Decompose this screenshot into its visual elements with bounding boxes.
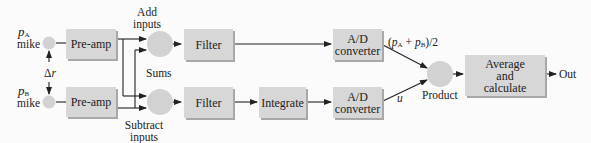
preamp-a-block: Pre-amp bbox=[66, 29, 116, 59]
sum-top-node bbox=[147, 31, 173, 57]
product-label: Product bbox=[422, 89, 458, 101]
sums-label: Sums bbox=[146, 67, 172, 79]
pressure-average-label: (pA + pB)/2 bbox=[388, 36, 438, 51]
mike-b-icon bbox=[43, 96, 56, 109]
preamp-b-block: Pre-amp bbox=[66, 87, 116, 117]
adc-a-block: A/D converter bbox=[333, 29, 382, 60]
delta-r-label: Δr bbox=[44, 67, 56, 79]
sum-bottom-node bbox=[147, 89, 173, 115]
filter-b-block: Filter bbox=[184, 87, 233, 118]
integrate-block: Integrate bbox=[259, 87, 306, 118]
mike-b-text: mike bbox=[17, 97, 40, 109]
adc-b-block: A/D converter bbox=[333, 87, 382, 118]
mike-a-text: mike bbox=[17, 38, 40, 50]
average-calculate-block: Average and calculate bbox=[465, 55, 545, 96]
subtract-inputs-label: Subtract inputs bbox=[116, 119, 172, 143]
filter-a-block: Filter bbox=[184, 29, 233, 60]
out-label: Out bbox=[559, 68, 576, 80]
add-inputs-label: Add inputs bbox=[122, 6, 172, 30]
mike-a-icon bbox=[43, 37, 56, 50]
sound-intensity-block-diagram: pA mike pB mike Δr Pre-amp Pre-amp Add i… bbox=[0, 0, 591, 143]
velocity-label: u bbox=[397, 92, 403, 104]
product-node bbox=[427, 61, 453, 87]
